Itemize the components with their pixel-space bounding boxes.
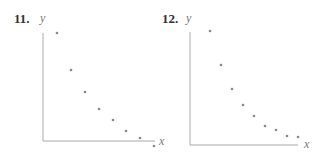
data-point (56, 32, 59, 35)
data-point (264, 125, 267, 128)
data-point (139, 137, 142, 140)
data-point (220, 64, 223, 67)
data-point (70, 69, 73, 72)
data-point (297, 136, 300, 139)
plot-12 (190, 30, 299, 145)
data-point (253, 115, 256, 118)
data-point (98, 108, 101, 111)
data-point (125, 130, 128, 133)
data-point (209, 30, 212, 33)
plot-11 (43, 32, 155, 148)
data-point (275, 129, 278, 132)
data-point (286, 135, 289, 138)
data-point (153, 145, 156, 148)
data-point (242, 104, 245, 107)
data-point (84, 91, 87, 94)
scatter-plots (0, 0, 329, 165)
data-point (231, 88, 234, 91)
data-point (112, 119, 115, 122)
